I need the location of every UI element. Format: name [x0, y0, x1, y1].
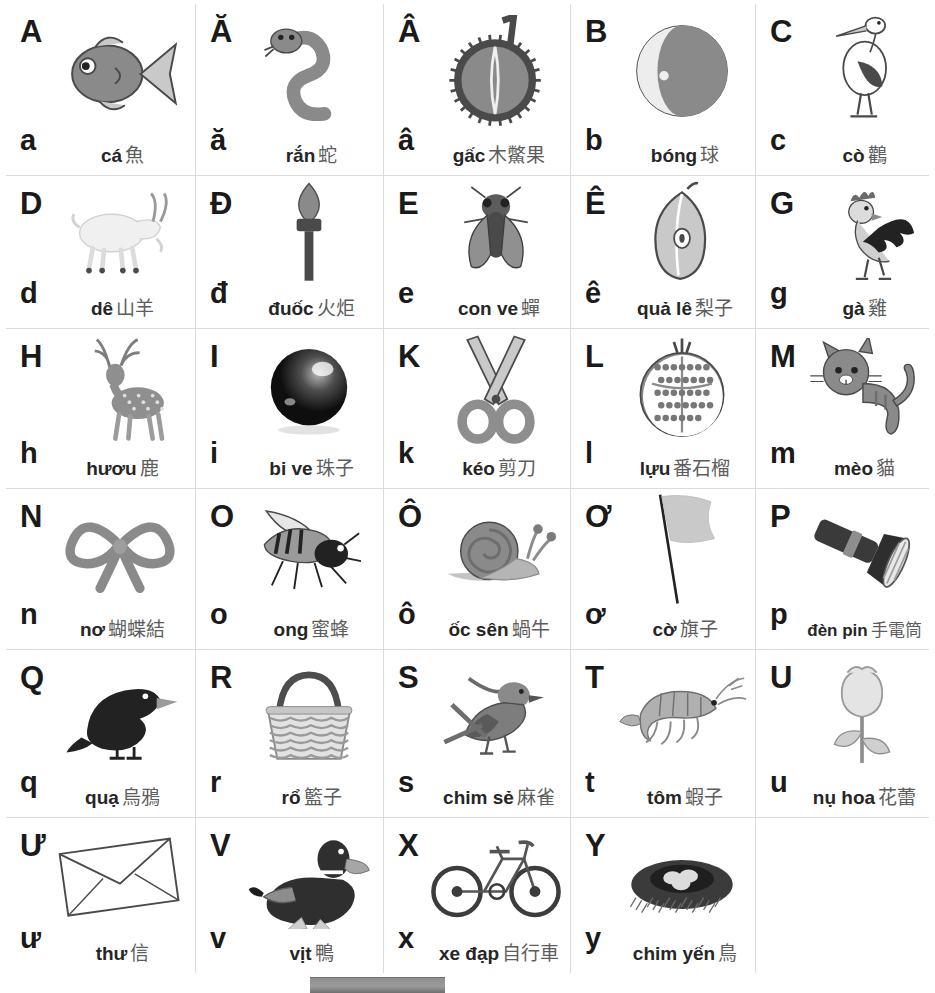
letter-uppercase: L: [585, 341, 603, 372]
alphabet-cell-x[interactable]: Xxxe đạp自行車: [384, 818, 571, 973]
han-gloss: 烏鴉: [122, 787, 160, 808]
letter-uppercase: Â: [398, 16, 420, 47]
alphabet-cell-ô[interactable]: Ôôốc sên蝸牛: [384, 489, 571, 649]
alphabet-cell-ư[interactable]: Ưưthư信: [6, 818, 196, 973]
alphabet-row: Aacá魚Ăărắn蛇Ââgấc木鱉果Bbbóng球Cccò鸛: [6, 4, 929, 176]
letter-uppercase: Ô: [398, 501, 422, 532]
letter-uppercase: Đ: [210, 188, 232, 219]
letter-uppercase: D: [20, 188, 42, 219]
letter-uppercase: R: [210, 662, 232, 693]
snail-icon: [428, 493, 564, 607]
han-gloss: 自行車: [502, 943, 559, 964]
letter-lowercase: u: [770, 768, 787, 797]
word-caption: đèn pin手電筒: [804, 621, 925, 641]
alphabet-cell-e[interactable]: Eecon ve蟬: [384, 176, 571, 328]
alphabet-cell-y[interactable]: Yychim yến鳥: [571, 818, 756, 973]
word-caption: tôm蝦子: [619, 787, 751, 809]
alphabet-cell-ơ[interactable]: Ơơcờ旗子: [571, 489, 756, 649]
vietnamese-word: quạ: [85, 787, 119, 808]
envelope-icon: [50, 822, 189, 931]
alphabet-cell-n[interactable]: Nnnơ蝴蝶結: [6, 489, 196, 649]
alphabet-cell-p[interactable]: Ppđèn pin手電筒: [756, 489, 929, 649]
alphabet-cell-d[interactable]: Dddê山羊: [6, 176, 196, 328]
vietnamese-word: cờ: [652, 619, 676, 640]
letter-lowercase: a: [20, 126, 36, 155]
han-gloss: 蟬: [521, 298, 540, 319]
vietnamese-word: nơ: [80, 619, 105, 640]
fish-icon: [50, 8, 189, 133]
alphabet-cell-u[interactable]: Uunụ hoa花蕾: [756, 650, 929, 817]
alphabet-cell-b[interactable]: Bbbóng球: [571, 4, 756, 175]
letter-lowercase: d: [20, 279, 37, 308]
bird-nest-icon: [615, 822, 749, 931]
alphabet-cell-â[interactable]: Ââgấc木鱉果: [384, 4, 571, 175]
han-gloss: 火炬: [317, 298, 355, 319]
han-gloss: 鹿: [140, 458, 159, 479]
word-caption: kéo剪刀: [432, 458, 566, 480]
alphabet-cell-r[interactable]: Rrrổ籃子: [196, 650, 384, 817]
vietnamese-word: tôm: [647, 787, 682, 808]
torch-icon: [240, 180, 377, 286]
vietnamese-word: gà: [842, 298, 864, 319]
alphabet-cell-ê[interactable]: Êêquả lê梨子: [571, 176, 756, 328]
letter-uppercase: G: [770, 188, 794, 219]
letter-uppercase: P: [770, 501, 790, 532]
word-caption: vịt鴨: [244, 943, 379, 965]
alphabet-cell-s[interactable]: Sschim sẻ麻雀: [384, 650, 571, 817]
han-gloss: 魚: [125, 145, 144, 166]
letter-lowercase: y: [585, 924, 601, 953]
letter-uppercase: Q: [20, 662, 44, 693]
alphabet-cell-a[interactable]: Aacá魚: [6, 4, 196, 175]
word-caption: đuốc火炬: [244, 298, 379, 320]
han-gloss: 鴨: [315, 943, 334, 964]
word-caption: bi ve珠子: [244, 458, 379, 480]
word-caption: cá魚: [54, 145, 191, 167]
alphabet-cell-g[interactable]: Gggà雞: [756, 176, 929, 328]
scissors-icon: [428, 333, 564, 446]
vietnamese-word: hươu: [86, 458, 136, 479]
han-gloss: 花蕾: [878, 787, 916, 808]
han-gloss: 珠子: [316, 458, 354, 479]
letter-lowercase: o: [210, 600, 227, 629]
beach-ball-icon: [615, 8, 749, 133]
alphabet-cell-k[interactable]: Kkkéo剪刀: [384, 329, 571, 488]
alphabet-cell-v[interactable]: Vvvịt鴨: [196, 818, 384, 973]
vietnamese-word: cò: [842, 145, 864, 166]
word-caption: mèo貓: [804, 458, 925, 480]
letter-uppercase: M: [770, 341, 795, 372]
bee-icon: [240, 493, 377, 607]
deer-icon: [50, 333, 189, 446]
word-caption: quả lê梨子: [619, 298, 751, 320]
alphabet-cell-o[interactable]: Ooong蜜蜂: [196, 489, 384, 649]
letter-uppercase: T: [585, 662, 603, 693]
han-gloss: 蛇: [318, 145, 337, 166]
letter-lowercase: v: [210, 924, 226, 953]
flag-icon: [615, 493, 749, 607]
han-gloss: 手電筒: [871, 621, 922, 640]
flashlight-icon: [800, 493, 923, 607]
han-gloss: 木鱉果: [488, 145, 545, 166]
alphabet-cell-l[interactable]: Lllựu番石榴: [571, 329, 756, 488]
alphabet-cell-m[interactable]: Mmmèo貓: [756, 329, 929, 488]
letter-lowercase: â: [398, 126, 414, 155]
alphabet-cell-ă[interactable]: Ăărắn蛇: [196, 4, 384, 175]
alphabet-cell-q[interactable]: Qqquạ烏鴉: [6, 650, 196, 817]
vietnamese-word: rổ: [282, 787, 301, 808]
letter-uppercase: H: [20, 341, 42, 372]
han-gloss: 蝸牛: [512, 619, 550, 640]
word-caption: ong蜜蜂: [244, 619, 379, 641]
letter-lowercase: k: [398, 439, 414, 468]
flower-bud-icon: [800, 654, 923, 775]
alphabet-row: Qqquạ烏鴉Rrrổ籃子Sschim sẻ麻雀Tttôm蝦子Uunụ hoa花…: [6, 650, 929, 818]
word-caption: rắn蛇: [244, 145, 379, 167]
alphabet-cell-đ[interactable]: Đđđuốc火炬: [196, 176, 384, 328]
snake-icon: [240, 8, 377, 133]
alphabet-cell-t[interactable]: Tttôm蝦子: [571, 650, 756, 817]
alphabet-cell-i[interactable]: Iibi ve珠子: [196, 329, 384, 488]
letter-uppercase: B: [585, 16, 607, 47]
alphabet-cell-c[interactable]: Cccò鸛: [756, 4, 929, 175]
vietnamese-word: rắn: [286, 145, 316, 166]
vietnamese-word: xe đạp: [439, 943, 499, 964]
word-caption: cờ旗子: [619, 619, 751, 641]
alphabet-cell-h[interactable]: Hhhươu鹿: [6, 329, 196, 488]
